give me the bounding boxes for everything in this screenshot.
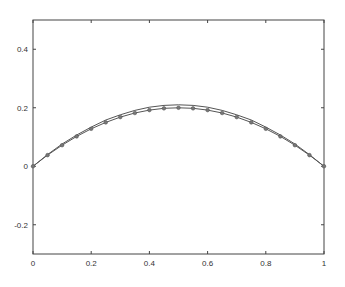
- data-point-marker: [206, 108, 210, 112]
- x-tick-label: 0.6: [202, 259, 214, 268]
- x-tick-label: 0.8: [260, 259, 272, 268]
- data-point-marker: [104, 121, 108, 125]
- data-point-marker: [148, 108, 152, 112]
- data-point-marker: [89, 127, 93, 131]
- data-point-marker: [60, 143, 64, 147]
- x-tick-label: 0.4: [144, 259, 156, 268]
- data-point-marker: [264, 127, 268, 131]
- data-point-marker: [177, 106, 181, 110]
- y-tick-label: 0: [24, 162, 29, 171]
- x-tick-label: 0: [31, 259, 36, 268]
- data-point-marker: [249, 121, 253, 125]
- data-point-marker: [220, 111, 224, 115]
- y-tick-label: -0.2: [14, 221, 28, 230]
- y-tick-label: 0.4: [17, 45, 29, 54]
- data-point-marker: [308, 153, 312, 157]
- data-point-marker: [279, 135, 283, 139]
- data-point-marker: [75, 135, 79, 139]
- data-point-marker: [133, 111, 137, 115]
- y-tick-label: 0.2: [17, 104, 29, 113]
- data-point-marker: [119, 115, 123, 119]
- data-point-marker: [235, 115, 239, 119]
- x-tick-label: 0.2: [86, 259, 98, 268]
- data-point-marker: [31, 164, 35, 168]
- line-chart: 00.20.40.60.81-0.200.20.4: [0, 0, 345, 287]
- data-point-marker: [46, 153, 50, 157]
- data-point-marker: [293, 143, 297, 147]
- x-tick-label: 1: [322, 259, 327, 268]
- data-point-marker: [322, 164, 326, 168]
- data-point-marker: [191, 107, 195, 111]
- data-point-marker: [162, 107, 166, 111]
